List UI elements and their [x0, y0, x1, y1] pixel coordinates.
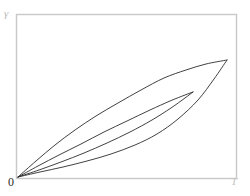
plot-figure: γ 0 T — [0, 0, 250, 196]
y-axis-label: γ — [4, 8, 8, 19]
x-axis-end-label: T — [231, 176, 237, 187]
plot-canvas — [0, 0, 250, 196]
plot-frame — [17, 15, 237, 179]
origin-label: 0 — [8, 176, 14, 188]
